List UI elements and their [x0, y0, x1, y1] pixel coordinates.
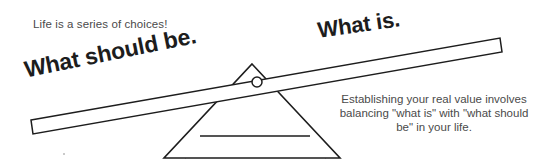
figure-canvas: Life is a series of choices! What should…	[0, 0, 534, 163]
scan-speck	[63, 153, 65, 155]
explanatory-paragraph: Establishing your real value involves ba…	[338, 92, 530, 135]
caption-text: Life is a series of choices!	[33, 18, 167, 30]
pivot-circle-icon	[252, 77, 262, 87]
